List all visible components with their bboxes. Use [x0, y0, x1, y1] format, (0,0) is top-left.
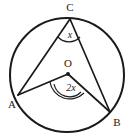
angle-label-x: x — [67, 29, 73, 40]
vertex-label-A: A — [8, 98, 16, 110]
segment-OB — [68, 74, 110, 112]
vertex-label-C: C — [66, 1, 73, 13]
vertex-label-B: B — [113, 116, 120, 128]
centre-point-dot — [66, 72, 70, 76]
geometry-figure: C A B O x 2x — [0, 0, 133, 139]
angle-label-2x: 2x — [66, 82, 76, 93]
vertex-label-O: O — [64, 57, 72, 69]
geometry-canvas: C A B O x 2x — [0, 0, 133, 139]
